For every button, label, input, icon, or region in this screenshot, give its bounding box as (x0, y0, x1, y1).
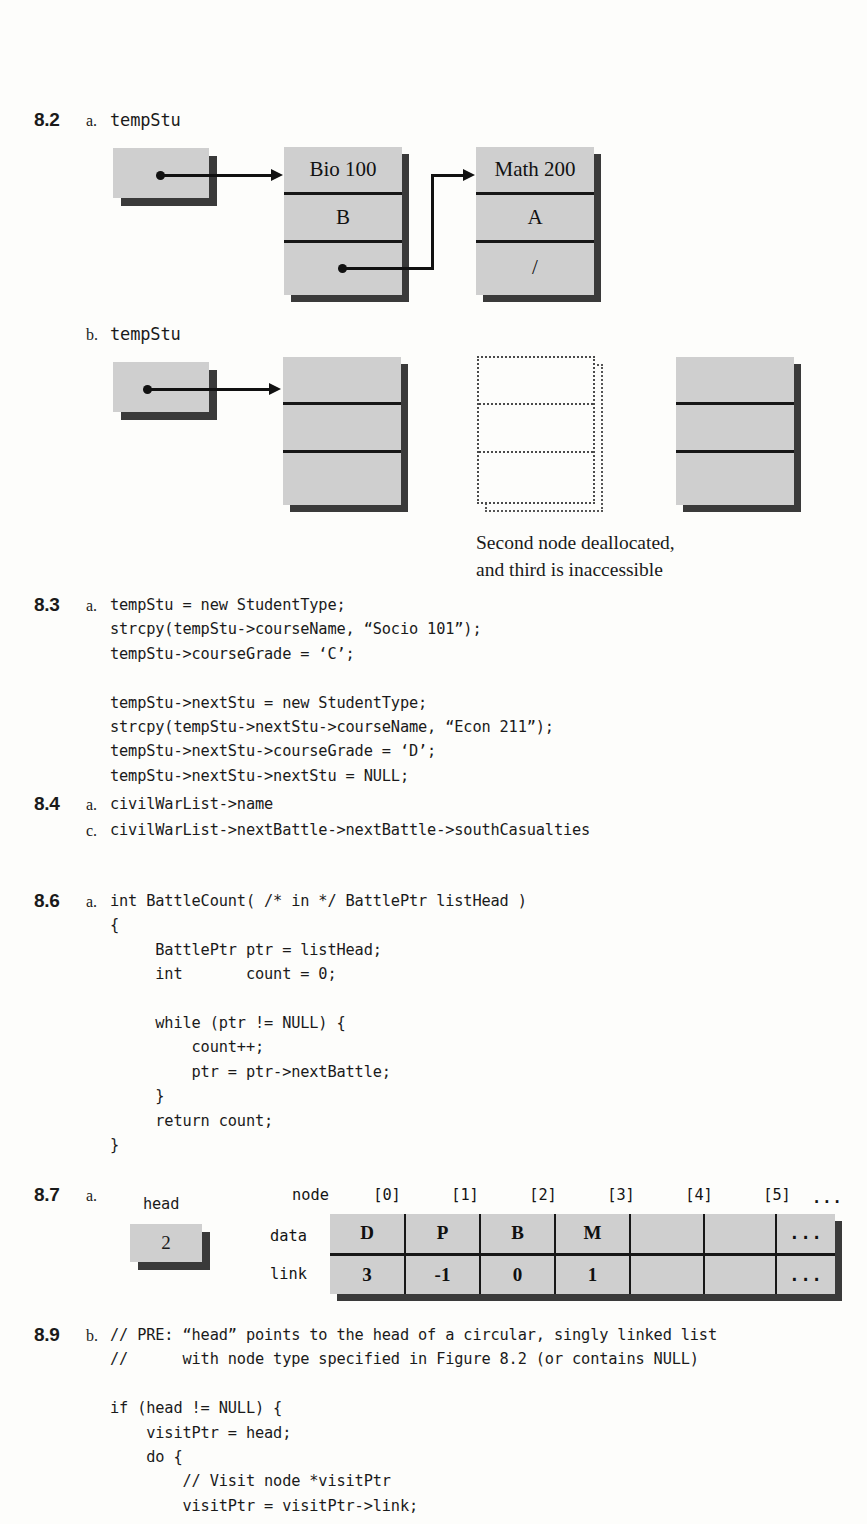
cell-link-0: 3 (330, 1256, 404, 1295)
column-header-2: [2] (512, 1186, 574, 1204)
arrow-head-a2 (463, 169, 475, 181)
node-cell-grade: A (476, 192, 594, 240)
arrow-head-a1 (271, 169, 283, 181)
deallocated-caption: Second node deallocated, and third is in… (476, 529, 856, 583)
head-label: head (143, 1192, 179, 1216)
node-cell-1 (283, 357, 401, 402)
cell-link-5 (703, 1256, 775, 1295)
code-block-8-6: int BattleCount( /* in */ BattlePtr list… (110, 889, 527, 1157)
head-pointer-box: 2 (130, 1224, 202, 1262)
pointer-line-a (160, 174, 275, 177)
part-letter-8-2-b: b. (86, 326, 98, 344)
part-letter-8-4-c: c. (86, 822, 97, 840)
cell-data-4 (629, 1214, 703, 1253)
node-dotted-body (477, 356, 595, 504)
part-letter-8-3-a: a. (86, 597, 97, 615)
cell-link-3: 1 (554, 1256, 629, 1295)
node-cell-3 (479, 451, 593, 502)
row-header-data: data (270, 1227, 307, 1245)
node-body: Math 200 A / (476, 147, 594, 295)
code-block-8-9: // PRE: “head” points to the head of a c… (110, 1323, 717, 1518)
exercise-number-8-9: 8.9 (34, 1324, 60, 1346)
exercise-number-8-6: 8.6 (34, 890, 60, 912)
row-header-link: link (270, 1265, 307, 1283)
answers-page: 8.2 a. tempStu Bio 100 B Math 200 A / b.… (0, 0, 867, 1524)
node-first-empty (283, 357, 401, 505)
cell-link-2: 0 (479, 1256, 554, 1295)
exercise-number-8-7: 8.7 (34, 1184, 60, 1206)
node-deallocated (477, 356, 595, 504)
node-cell-grade: B (284, 192, 402, 240)
code-8-4-c: civilWarList->nextBattle->nextBattle->so… (110, 818, 590, 842)
column-header-0: [0] (356, 1186, 418, 1204)
cell-link-4 (629, 1256, 703, 1295)
code-8-4-a: civilWarList->name (110, 792, 273, 816)
column-header-4: [4] (668, 1186, 730, 1204)
node-cell-coursename: Bio 100 (284, 147, 402, 192)
code-block-8-3: tempStu = new StudentType; strcpy(tempSt… (110, 593, 554, 788)
node-cell-1 (676, 357, 794, 402)
exercise-number-8-3: 8.3 (34, 594, 60, 616)
cell-data-5 (703, 1214, 775, 1253)
node-cell-3 (676, 450, 794, 502)
table-body: D P B M ... 3 -1 0 1 ... (330, 1214, 835, 1294)
cell-data-1: P (404, 1214, 479, 1253)
node-body (676, 357, 794, 505)
column-header-5: [5] (746, 1186, 808, 1204)
part-letter-8-4-a: a. (86, 796, 97, 814)
column-header-ellipsis: ... (812, 1189, 843, 1207)
table-row-data: D P B M ... (330, 1214, 835, 1253)
part-letter-8-9-b: b. (86, 1327, 98, 1345)
connector-v1 (431, 174, 434, 270)
column-header-1: [1] (434, 1186, 496, 1204)
node-cell-2 (676, 402, 794, 450)
exercise-number-8-2: 8.2 (34, 109, 60, 131)
cell-data-0: D (330, 1214, 404, 1253)
part-letter-8-2-a: a. (86, 112, 97, 130)
arrow-head-b1 (269, 383, 281, 395)
part-letter-8-6-a: a. (86, 893, 97, 911)
pointer-box-tempstu-b (113, 362, 209, 412)
node-math-200: Math 200 A / (476, 147, 594, 295)
node-cell-2 (479, 403, 593, 451)
node-cell-3 (283, 450, 401, 502)
connector-h2 (431, 174, 467, 177)
column-header-3: [3] (590, 1186, 652, 1204)
part-letter-8-7-a: a. (86, 1187, 97, 1205)
box-body (113, 362, 209, 412)
label-tempstu-b: tempStu (110, 322, 181, 346)
node-cell-2 (283, 402, 401, 450)
node-inaccessible (676, 357, 794, 505)
cell-data-3: M (554, 1214, 629, 1253)
node-body (283, 357, 401, 505)
array-table: D P B M ... 3 -1 0 1 ... (330, 1214, 835, 1294)
table-corner-label: node (292, 1186, 329, 1204)
table-row-link: 3 -1 0 1 ... (330, 1253, 835, 1295)
node-cell-coursename: Math 200 (476, 147, 594, 192)
pointer-line-b (147, 388, 273, 391)
cell-data-2: B (479, 1214, 554, 1253)
connector-h1 (342, 267, 434, 270)
cell-link-ellipsis: ... (775, 1256, 835, 1295)
label-tempstu-a: tempStu (110, 108, 181, 132)
exercise-number-8-4: 8.4 (34, 793, 60, 815)
cell-link-1: -1 (404, 1256, 479, 1295)
cell-data-ellipsis: ... (775, 1214, 835, 1253)
node-cell-null-slash: / (476, 240, 594, 292)
node-cell-1 (479, 358, 593, 403)
box-body: 2 (130, 1224, 202, 1262)
